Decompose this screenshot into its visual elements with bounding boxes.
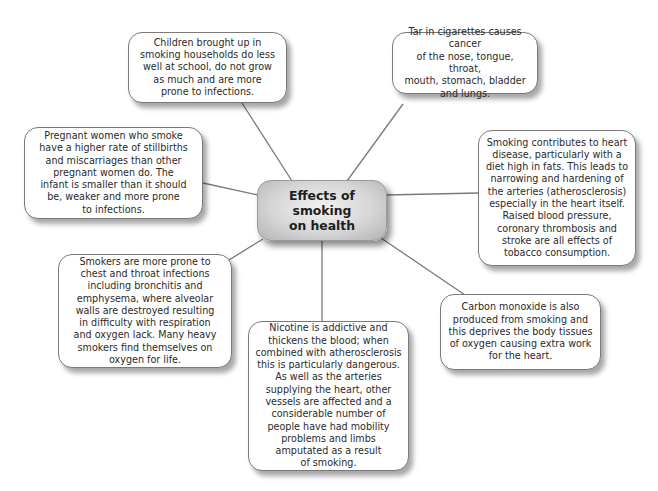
connector-tar <box>347 104 403 181</box>
node-children: Children brought up in smoking household… <box>128 32 287 103</box>
connector-pregnant <box>203 183 258 195</box>
connector-heart <box>386 193 478 195</box>
node-pregnant-text: Pregnant women who smoke have a higher r… <box>39 130 187 216</box>
node-nicotine: Nicotine is addictive and thickens the b… <box>248 321 409 471</box>
node-carbon-monoxide: Carbon monoxide is also produced from sm… <box>440 294 601 370</box>
connector-children <box>242 103 292 181</box>
connector-carbon-monoxide <box>381 238 465 295</box>
node-respiratory-text: Smokers are more prone to chest and thro… <box>74 256 217 367</box>
node-tar: Tar in cigarettes causes cancer of the n… <box>392 32 538 94</box>
central-topic: Effects of smoking on health <box>257 180 387 241</box>
node-nicotine-text: Nicotine is addictive and thickens the b… <box>255 322 401 470</box>
node-heart: Smoking contributes to heart disease, pa… <box>478 130 636 266</box>
node-heart-text: Smoking contributes to heart disease, pa… <box>486 137 628 260</box>
mind-map-diagram: Children brought up in smoking household… <box>0 0 658 491</box>
node-tar-text: Tar in cigarettes causes cancer of the n… <box>399 26 531 100</box>
node-children-text: Children brought up in smoking household… <box>140 37 275 98</box>
node-carbon-monoxide-text: Carbon monoxide is also produced from sm… <box>449 301 593 362</box>
node-respiratory: Smokers are more prone to chest and thro… <box>58 254 232 368</box>
node-pregnant: Pregnant women who smoke have a higher r… <box>24 127 203 219</box>
central-topic-text: Effects of smoking on health <box>289 188 355 233</box>
